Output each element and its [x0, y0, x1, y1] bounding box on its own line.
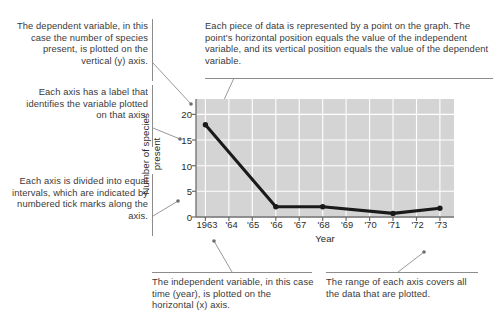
x-tick-label: '64	[225, 219, 237, 230]
line-chart: 0 5 10 15 20 Number of species present 1…	[196, 99, 454, 217]
y-tick-label: 15	[181, 135, 192, 146]
x-tick-label: '67	[294, 219, 306, 230]
gridlines-vertical	[205, 99, 440, 217]
y-axis-title: Number of species present	[140, 91, 170, 217]
x-tick-label: '66	[270, 219, 282, 230]
x-tick-label: 1963	[197, 219, 218, 230]
gridlines-horizontal	[196, 114, 454, 217]
x-tick-label: '73	[435, 219, 447, 230]
y-tick-labels: 0 5 10 15 20	[174, 99, 192, 217]
figure-root: The dependent variable, in this case the…	[0, 0, 498, 328]
y-tick-label: 20	[181, 109, 192, 120]
x-tick-label: '69	[341, 219, 353, 230]
x-tick-label: '71	[388, 219, 400, 230]
y-tick-label: 10	[181, 160, 192, 171]
x-axis-title: Year	[196, 233, 454, 244]
chart-canvas	[196, 99, 454, 217]
x-tick-label: '65	[247, 219, 259, 230]
x-tick-label: '70	[364, 219, 376, 230]
x-tick-label: '68	[317, 219, 329, 230]
y-tick-label: 5	[187, 186, 192, 197]
y-tick-label: 0	[187, 212, 192, 223]
y-axis-title-line2: present	[151, 91, 162, 217]
x-tick-label: '72	[411, 219, 423, 230]
y-axis-title-line1: Number of species	[140, 91, 151, 217]
x-tick-labels: 1963 '64 '65 '66 '67 '68 '69 '70 '71 '72…	[196, 219, 454, 233]
